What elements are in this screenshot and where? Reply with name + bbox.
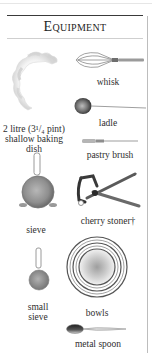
label-line: sieve	[10, 312, 66, 322]
metal-spoon-icon	[66, 323, 128, 335]
label-cherry-stoner: cherry stoner†	[68, 216, 148, 226]
label-line: small	[10, 302, 66, 312]
panel-title: Equipment	[7, 19, 143, 35]
label-bowls: bowls	[66, 308, 128, 318]
label-pastry-brush: pastry brush	[72, 150, 148, 160]
label-line: shallow baking	[2, 134, 66, 144]
label-baking-dish: 2 litre (3¹/₄ pint) shallow baking dish	[2, 124, 66, 154]
baking-dish-icon	[8, 48, 63, 113]
label-small-sieve: small sieve	[10, 302, 66, 322]
pastry-brush-icon	[82, 137, 138, 145]
small-sieve-icon	[28, 247, 50, 295]
sieve-icon	[18, 152, 60, 216]
cherry-stoner-icon	[73, 168, 145, 210]
label-ladle: ladle	[72, 118, 144, 128]
label-whisk: whisk	[72, 77, 144, 87]
panel-right-border	[147, 16, 148, 353]
ladle-icon	[74, 96, 146, 116]
label-sieve: sieve	[8, 225, 64, 235]
title-underline	[7, 38, 143, 39]
bowls-icon	[66, 236, 128, 298]
label-metal-spoon: metal spoon	[62, 339, 134, 349]
label-line: 2 litre (3¹/₄ pint)	[2, 124, 66, 134]
whisk-icon	[72, 49, 144, 71]
top-divider	[0, 3, 152, 4]
header-rule	[7, 15, 143, 16]
